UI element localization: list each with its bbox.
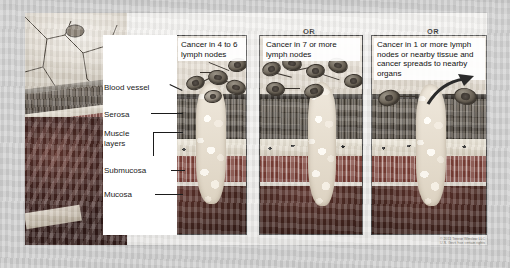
copyright-credit: © 2011 Terese Winslow LLC U.S. Govt. has… [440,237,485,246]
node-core [214,74,222,81]
node-core [350,78,357,84]
anatomy-label-card: Blood vessel Serosa Muscle layers Submuc… [103,35,177,235]
label-serosa: Serosa [104,110,175,120]
leader-serosa [151,113,183,114]
leader-mucosa [155,194,183,195]
label-submucosa: Submucosa [104,166,175,176]
node-core [267,65,275,72]
tumor-mass [308,82,336,206]
leader-muscle-bracket [153,132,154,156]
node-core [209,94,216,100]
panel-2-caption: Cancer in 7 or more lymph nodes [263,38,360,61]
panel-stage-spread-to-organs: Cancer in 1 or more lymph nodes or nearb… [371,35,487,235]
credit-line-2: U.S. Govt. has certain rights [440,241,485,246]
node-core [232,84,240,91]
label-muscle-line-2: layers [104,139,125,148]
node-core [310,88,318,95]
node-core [334,62,342,69]
figure-plate: OR OR [25,13,487,245]
leader-submucosa [171,170,185,171]
node-core [272,86,279,92]
node-core [191,80,199,87]
label-muscle-line-1: Muscle [104,129,129,138]
panel-1-caption: Cancer in 4 to 6 lymph nodes [178,38,246,61]
label-blood-vessel: Blood vessel [104,83,175,93]
leader-muscle-layers [153,132,183,133]
node-core [234,62,242,68]
node-core [288,60,296,67]
page-background: OR OR [0,0,510,268]
spread-arrow-icon [424,72,478,106]
panel-stage-7-or-more-nodes: Cancer in 7 or more lymph nodes [259,35,363,235]
node-core [312,68,319,74]
panel-2-crosssection [260,36,362,234]
node-core [384,94,393,102]
